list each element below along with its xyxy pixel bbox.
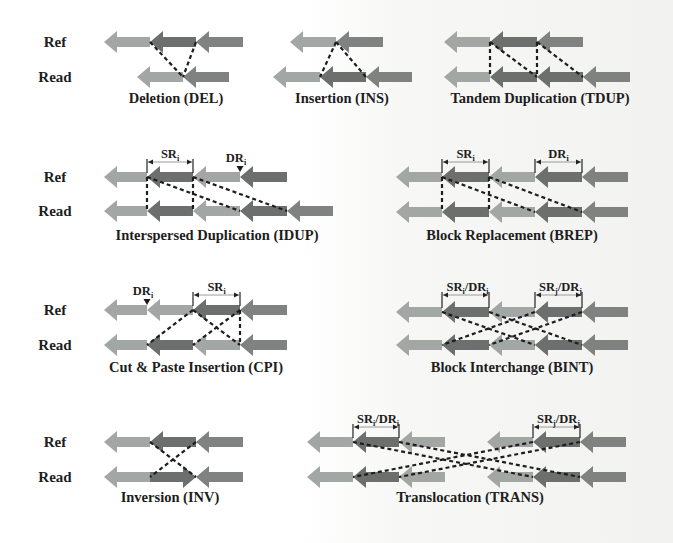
panel-caption: Cut & Paste Insertion (CPI) <box>109 359 283 376</box>
panel-trans: SRi/DRiSRj/DRjTranslocation (TRANS) <box>307 412 626 506</box>
read-sequence <box>396 201 628 223</box>
region-bracket: SRi/DRi <box>442 280 489 308</box>
row-label-ref: Ref <box>44 434 67 450</box>
sequence-segment-arrow-icon <box>287 200 333 222</box>
sequence-segment-arrow-icon <box>196 31 243 53</box>
sequence-segment-arrow-icon <box>104 334 147 356</box>
sequence-segment-arrow-icon <box>147 299 193 321</box>
mapping-lines <box>442 177 582 212</box>
panel-idup: SRiDRiInterspersed Duplication (IDUP) <box>104 147 333 244</box>
bracket-arrow-icon <box>576 160 581 165</box>
read-sequence <box>104 334 287 356</box>
panel-caption: Tandem Duplication (TDUP) <box>450 90 629 107</box>
row-label-ref: Ref <box>44 169 67 185</box>
ref-sequence <box>104 31 243 53</box>
sequence-segment-arrow-icon <box>533 431 580 453</box>
ref-sequence <box>104 299 287 321</box>
region-bracket: SRj/DRj <box>535 280 582 308</box>
panels: Deletion (DEL)Insertion (INS)Tandem Dupl… <box>104 31 630 506</box>
sequence-segment-arrow-icon <box>582 201 628 223</box>
read-sequence <box>273 66 412 88</box>
sequence-segment-arrow-icon <box>307 431 353 453</box>
sequence-segment-arrow-icon <box>240 334 287 356</box>
sequence-segment-arrow-icon <box>399 431 445 453</box>
panel-caption: Block Replacement (BREP) <box>426 227 598 244</box>
row-label-ref: Ref <box>44 34 67 50</box>
sequence-segment-arrow-icon <box>537 66 583 88</box>
panel-caption: Insertion (INS) <box>295 90 389 107</box>
bracket-arrow-icon <box>483 160 488 165</box>
region-bracket: SRi <box>147 147 193 173</box>
bracket-arrow-icon <box>234 293 239 298</box>
sequence-segment-arrow-icon <box>396 201 442 223</box>
region-bracket: SRi <box>442 147 489 173</box>
row-label-read: Read <box>38 469 72 485</box>
ref-sequence <box>444 31 583 53</box>
sequence-segment-arrow-icon <box>193 299 240 321</box>
sequence-segment-arrow-icon <box>490 31 537 53</box>
region-label: SRi/DRi <box>357 412 400 428</box>
dashed-mapping-line <box>489 177 582 212</box>
sequence-segment-arrow-icon <box>582 334 628 356</box>
sequence-segment-arrow-icon <box>196 431 243 453</box>
mapping-lines <box>147 177 287 211</box>
bracket-arrow-icon <box>536 160 541 165</box>
sequence-segment-arrow-icon <box>582 301 628 323</box>
region-bracket: SRi <box>193 280 240 306</box>
sequence-segment-arrow-icon <box>104 166 147 188</box>
sequence-segment-arrow-icon <box>396 334 442 356</box>
sequence-segment-arrow-icon <box>580 431 626 453</box>
region-label: SRi <box>456 147 475 163</box>
region-label: DRi <box>226 151 247 167</box>
row-label-read: Read <box>38 69 72 85</box>
dashed-mapping-line <box>193 177 287 211</box>
sv-types-diagram: RefReadRefReadRefReadRefRead Deletion (D… <box>0 0 673 543</box>
region-label: DRi <box>548 147 569 163</box>
down-triangle-icon <box>144 299 151 305</box>
sequence-segment-arrow-icon <box>535 201 582 223</box>
sequence-segment-arrow-icon <box>583 66 630 88</box>
panel-caption: Translocation (TRANS) <box>396 489 544 506</box>
sequence-segment-arrow-icon <box>396 301 442 323</box>
sequence-segment-arrow-icon <box>535 166 582 188</box>
sequence-segment-arrow-icon <box>147 334 193 356</box>
sequence-segment-arrow-icon <box>240 166 287 188</box>
region-bracket: DRi <box>535 147 582 173</box>
region-label: SRj/DRj <box>539 280 582 296</box>
dashed-mapping-line <box>150 42 183 77</box>
panel-ins: Insertion (INS) <box>273 31 412 107</box>
sequence-segment-arrow-icon <box>104 466 150 488</box>
panel-caption: Block Interchange (BINT) <box>431 359 594 376</box>
panel-bint: SRi/DRiSRj/DRjBlock Interchange (BINT) <box>396 280 628 376</box>
sequence-segment-arrow-icon <box>307 466 353 488</box>
mapping-lines <box>150 442 196 477</box>
down-triangle-icon <box>237 166 244 172</box>
region-bracket: SRj/DRj <box>533 412 580 438</box>
sequence-segment-arrow-icon <box>290 31 336 53</box>
sequence-segment-arrow-icon <box>537 31 583 53</box>
row-label-read: Read <box>38 337 72 353</box>
sequence-segment-arrow-icon <box>196 466 243 488</box>
sequence-segment-arrow-icon <box>442 201 489 223</box>
panel-caption: Interspersed Duplication (IDUP) <box>116 227 319 244</box>
sequence-segment-arrow-icon <box>147 200 193 222</box>
panel-brep: SRiDRiBlock Replacement (BREP) <box>396 147 628 244</box>
read-sequence <box>104 466 243 488</box>
breakpoint-marker: DRi <box>133 284 154 305</box>
sequence-segment-arrow-icon <box>104 31 150 53</box>
sequence-segment-arrow-icon <box>240 200 287 222</box>
mapping-lines <box>147 310 240 345</box>
sequence-segment-arrow-icon <box>183 66 229 88</box>
sequence-segment-arrow-icon <box>150 431 196 453</box>
dashed-mapping-line <box>336 42 366 77</box>
region-label: SRi <box>161 147 180 163</box>
panel-del: Deletion (DEL) <box>104 31 243 107</box>
mapping-lines <box>490 42 583 77</box>
sequence-segment-arrow-icon <box>104 431 150 453</box>
bracket-arrow-icon <box>187 160 192 165</box>
bracket-arrow-icon <box>194 293 199 298</box>
ref-sequence <box>104 431 243 453</box>
bracket-arrow-icon <box>443 160 448 165</box>
bracket-arrow-icon <box>148 160 153 165</box>
sequence-segment-arrow-icon <box>150 466 196 488</box>
